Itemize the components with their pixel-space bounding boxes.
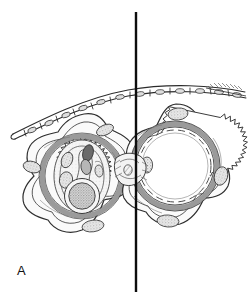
panel-label: A [17,264,26,277]
figure-panel-a: A [0,0,252,303]
ovule-cross-section-illustration [0,0,252,303]
